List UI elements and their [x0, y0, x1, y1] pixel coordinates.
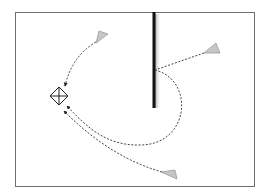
path-top-right-reflect-wall	[155, 53, 204, 70]
path-bottom-right-to-target	[64, 111, 162, 172]
path-wall-loop-to-target	[67, 70, 182, 145]
source-top-left-icon	[96, 31, 108, 43]
obstacle-wall	[153, 12, 156, 108]
source-bottom-right-icon	[161, 170, 177, 179]
diagram-svg	[0, 0, 266, 196]
source-top-right-icon	[204, 43, 220, 53]
receiver-target-icon	[50, 87, 68, 105]
wall-shadow	[155, 14, 161, 108]
signal-paths	[64, 42, 204, 172]
path-top-left-to-target	[65, 42, 96, 86]
diagram-canvas	[0, 0, 266, 196]
